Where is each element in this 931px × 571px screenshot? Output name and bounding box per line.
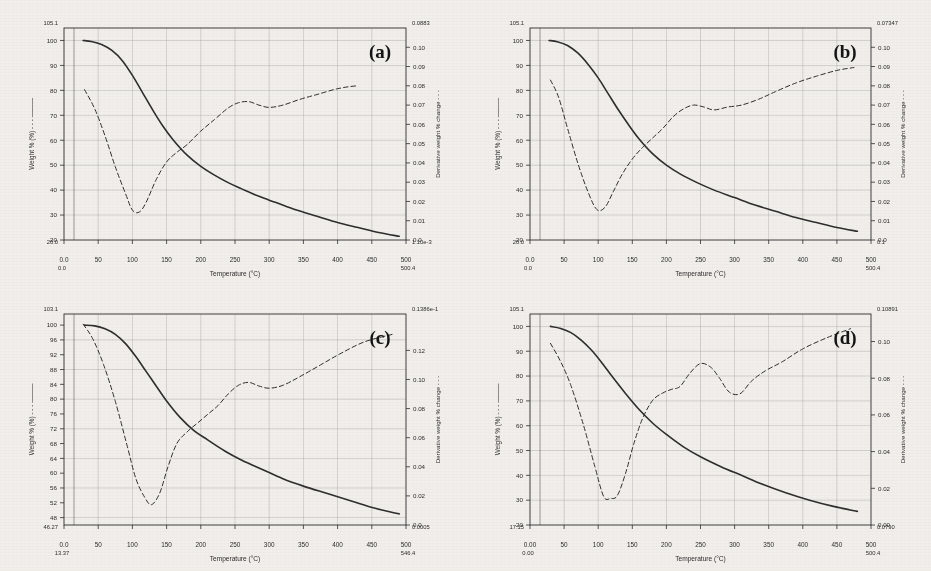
svg-text:0.0883: 0.0883	[412, 20, 430, 26]
svg-text:80: 80	[516, 87, 523, 94]
gridlines	[530, 314, 871, 525]
svg-text:0.0: 0.0	[60, 256, 69, 263]
svg-text:0.06: 0.06	[878, 411, 891, 418]
chart-plot-area: 0.05010015020025030035040045050020304050…	[0, 0, 466, 286]
svg-text:56: 56	[50, 484, 57, 491]
svg-text:0.09: 0.09	[413, 63, 426, 70]
x-axis-title: Temperature (°C)	[210, 555, 261, 563]
svg-text:546.4: 546.4	[401, 550, 416, 556]
svg-text:250: 250	[230, 541, 241, 548]
svg-text:0.1: 0.1	[877, 239, 885, 245]
svg-text:96: 96	[50, 336, 57, 343]
svg-text:150: 150	[627, 541, 638, 548]
svg-text:48: 48	[50, 514, 57, 521]
svg-text:350: 350	[298, 541, 309, 548]
svg-text:100: 100	[513, 323, 524, 330]
y-axis-title: Weight % (%) - - - ———	[28, 383, 36, 455]
svg-text:0.12: 0.12	[413, 347, 426, 354]
svg-text:250: 250	[695, 256, 706, 263]
svg-text:0.01: 0.01	[413, 217, 426, 224]
chart-plot-area: 0.05010015020025030035040045050020304050…	[466, 0, 931, 286]
svg-text:200: 200	[661, 541, 672, 548]
dtg-derivative-curve	[550, 68, 853, 211]
x-axis-title: Temperature (°C)	[675, 555, 726, 563]
svg-text:450: 450	[366, 256, 377, 263]
tga-weight-curve	[550, 326, 857, 511]
secondary-y-axis-title: Derivative weight % change - - -	[899, 90, 906, 178]
svg-text:0.0: 0.0	[58, 265, 66, 271]
tga-weight-curve	[83, 40, 399, 236]
axis-titles: Temperature (°C)Weight % (%) - - - ———De…	[28, 376, 441, 563]
chart-plot-area: 0.05010015020025030035040045050048525660…	[0, 286, 466, 571]
svg-text:13.37: 13.37	[55, 550, 70, 556]
svg-text:40: 40	[516, 186, 523, 193]
svg-text:0.09: 0.09	[878, 63, 891, 70]
panel-b: 0.05010015020025030035040045050020304050…	[466, 0, 931, 286]
svg-text:250: 250	[695, 541, 706, 548]
svg-text:0.08: 0.08	[413, 405, 426, 412]
svg-text:17.15: 17.15	[509, 524, 524, 530]
svg-text:0.05: 0.05	[878, 140, 891, 147]
svg-text:103.1: 103.1	[43, 306, 58, 312]
svg-text:40: 40	[50, 186, 57, 193]
svg-text:0.03: 0.03	[878, 178, 891, 185]
svg-text:60: 60	[50, 469, 57, 476]
secondary-y-axis-title: Derivative weight % change - - -	[434, 90, 441, 178]
svg-text:500: 500	[866, 541, 877, 548]
svg-text:60: 60	[50, 137, 57, 144]
svg-text:100: 100	[593, 541, 604, 548]
gridlines	[64, 28, 406, 240]
svg-text:0.0: 0.0	[60, 541, 69, 548]
svg-text:50: 50	[561, 256, 569, 263]
svg-text:100: 100	[127, 541, 138, 548]
svg-text:80: 80	[50, 395, 57, 402]
gridlines	[530, 28, 871, 240]
svg-text:80: 80	[50, 87, 57, 94]
panel-letter-label: (c)	[369, 327, 390, 349]
svg-text:500.4: 500.4	[401, 265, 416, 271]
svg-text:200: 200	[195, 541, 206, 548]
svg-text:70: 70	[516, 397, 523, 404]
svg-text:200: 200	[195, 256, 206, 263]
axis-titles: Temperature (°C)Weight % (%) - - - ———De…	[494, 376, 906, 563]
svg-text:150: 150	[161, 541, 172, 548]
svg-text:0.00: 0.00	[524, 541, 537, 548]
svg-text:68: 68	[50, 440, 57, 447]
panel-letter-label: (d)	[833, 327, 856, 349]
svg-text:450: 450	[832, 256, 843, 263]
svg-text:100: 100	[47, 321, 58, 328]
svg-text:90: 90	[516, 62, 523, 69]
panel-c: 0.05010015020025030035040045050048525660…	[0, 286, 466, 571]
svg-text:70: 70	[516, 112, 523, 119]
y-axis-title: Weight % (%) - - - ———	[28, 98, 36, 170]
svg-text:64: 64	[50, 455, 57, 462]
svg-text:0.02: 0.02	[878, 485, 891, 492]
svg-text:92: 92	[50, 351, 57, 358]
svg-text:105.1: 105.1	[509, 20, 524, 26]
data-series	[549, 40, 857, 231]
data-series	[83, 324, 399, 514]
svg-text:50: 50	[95, 541, 103, 548]
svg-text:50: 50	[95, 256, 103, 263]
svg-text:0.00: 0.00	[522, 550, 533, 556]
svg-text:0.08: 0.08	[878, 375, 891, 382]
svg-text:150: 150	[161, 256, 172, 263]
x-axis-title: Temperature (°C)	[210, 270, 261, 278]
svg-text:90: 90	[516, 348, 523, 355]
svg-text:50: 50	[50, 161, 57, 168]
svg-text:500: 500	[401, 256, 412, 263]
svg-text:90: 90	[50, 62, 57, 69]
svg-text:0.07: 0.07	[413, 101, 426, 108]
svg-text:0.02: 0.02	[878, 198, 891, 205]
svg-text:0.06: 0.06	[413, 434, 426, 441]
svg-text:60: 60	[516, 422, 523, 429]
svg-text:0.10: 0.10	[878, 44, 891, 51]
svg-text:0.07347: 0.07347	[877, 20, 898, 26]
svg-text:80: 80	[516, 372, 523, 379]
tga-weight-curve	[549, 40, 857, 231]
svg-text:0.04: 0.04	[413, 463, 426, 470]
svg-text:300: 300	[729, 256, 740, 263]
axis-ticks: 0.05010015020025030035040045050048525660…	[47, 321, 426, 548]
svg-text:0.08: 0.08	[413, 82, 426, 89]
svg-text:0.0790: 0.0790	[877, 524, 895, 530]
